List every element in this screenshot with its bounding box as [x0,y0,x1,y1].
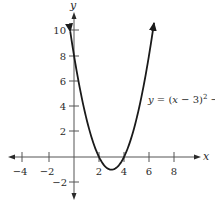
parabola-curve [70,23,154,170]
y-tick-label: −2 [52,177,67,188]
x-tick-label: −2 [40,166,55,177]
y-tick-label: 2 [60,126,66,137]
x-tick-label: 4 [121,166,127,177]
x-tick-label: −4 [13,166,28,177]
x-axis-label: x [203,150,210,163]
x-axis-left-arrow-icon [8,155,15,160]
y-axis-up-arrow-icon [72,12,77,19]
y-axis-label: y [69,0,77,12]
x-tick-label: 2 [96,166,102,177]
y-axis-down-arrow-icon [72,193,77,200]
equation-label: y = (x − 3)2 − 1 [147,93,215,105]
y-tick-label: 10 [53,25,66,36]
y-tick-labels: 10 8 6 4 2 −2 [52,25,67,188]
x-tick-label: 8 [171,166,177,177]
x-tick-label: 6 [146,166,152,177]
x-tick-labels: −4 −2 2 4 6 8 [13,166,178,177]
y-tick-label: 6 [60,76,66,87]
x-axis: x [8,150,210,163]
y-tick-label: 4 [60,101,66,112]
y-tick-label: 8 [60,51,66,62]
x-axis-right-arrow-icon [194,155,201,160]
parabola-graph: x y −4 −2 2 4 6 8 10 8 6 4 2 −2 [0,0,215,202]
